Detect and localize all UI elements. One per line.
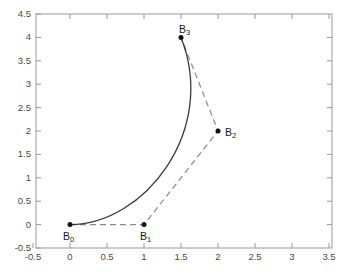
x-tick-label-2: 2 [215,252,220,262]
point-b0 [68,222,73,227]
point-label-b0-base: B [63,230,70,242]
y-tick-marks-right [327,37,332,224]
y-tick-label-3: 3 [6,79,31,89]
point-b2 [216,129,221,134]
x-tick-label-1-5: 1.5 [174,252,187,262]
point-label-b1-sub: 1 [147,235,151,244]
y-tick-marks [36,14,41,248]
x-tick-label-3: 3 [289,252,294,262]
point-label-b0: B0 [63,231,74,242]
point-label-b2-sub: 2 [232,131,236,140]
control-point-markers [68,35,221,227]
x-tick-marks [33,243,329,248]
y-tick-label-0: 0 [6,220,31,230]
point-label-b3: B3 [179,24,190,35]
y-tick-label-1-5: 1.5 [6,150,31,160]
point-label-b3-base: B [179,23,186,35]
y-tick-label-4-5: 4.5 [6,9,31,19]
y-tick-label-1: 1 [6,173,31,183]
point-b1 [142,222,147,227]
y-tick-label-3-5: 3.5 [6,56,31,66]
plot-canvas [0,0,344,280]
bezier-curve-figure: -0.5 0 0.5 1 1.5 2 2.5 3 3.5 -0.5 0 0.5 … [0,0,344,280]
x-tick-label-0: 0 [67,252,72,262]
y-tick-label-2-5: 2.5 [6,103,31,113]
control-polygon [70,37,218,224]
x-tick-label-2-5: 2.5 [248,252,261,262]
x-tick-label-0-5: 0.5 [100,252,113,262]
point-label-b1-base: B [140,230,147,242]
point-label-b2-base: B [225,126,232,138]
x-tick-marks-top [70,14,329,19]
x-tick-label-3-5: 3.5 [322,252,335,262]
bezier-curve [70,37,191,224]
point-label-b3-sub: 3 [186,28,190,37]
x-tick-label--0-5: -0.5 [25,252,41,262]
point-label-b0-sub: 0 [70,235,74,244]
y-tick-label--0-5: -0.5 [6,243,31,253]
y-tick-label-4: 4 [6,33,31,43]
point-label-b2: B2 [225,127,236,138]
x-tick-label-1: 1 [141,252,146,262]
point-label-b1: B1 [140,231,151,242]
y-tick-label-2: 2 [6,126,31,136]
point-b3 [179,35,184,40]
y-tick-label-0-5: 0.5 [6,196,31,206]
